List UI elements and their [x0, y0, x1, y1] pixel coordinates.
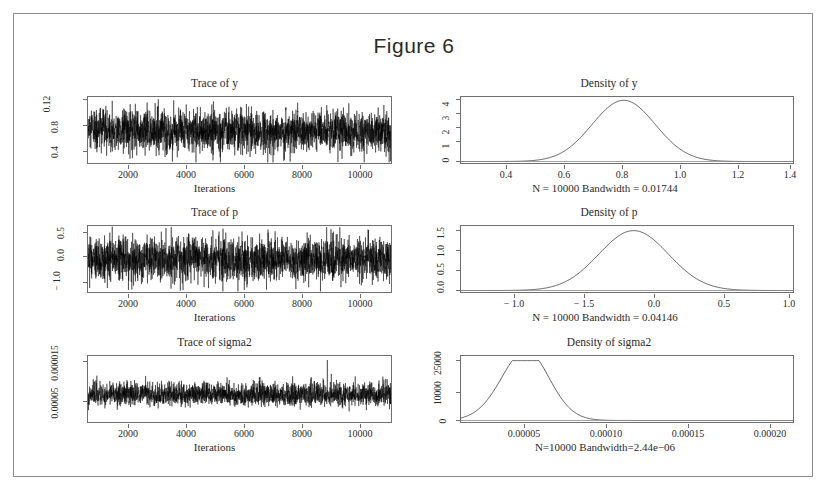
- x-axis-title: Iterations: [62, 441, 367, 453]
- panel-title: Trace of y: [32, 77, 397, 89]
- y-tick-label: − 1.0: [52, 262, 62, 300]
- x-axis-title: N=10000 Bandwidth=2.44e−06: [438, 441, 772, 453]
- y-tick-label: 0.00005: [50, 380, 60, 426]
- x-tick-label: 2000: [118, 169, 138, 180]
- x-tick-label: 4000: [176, 169, 196, 180]
- plot-area: [87, 355, 392, 423]
- x-tick-label: 10000: [348, 298, 373, 309]
- panel-density-y: Density of y 4 3 2 1 0 0.4 0.6 0.8 1.0 1…: [414, 77, 804, 199]
- density-p-curve: [461, 226, 793, 292]
- panel-title: Trace of p: [32, 206, 397, 218]
- x-axis-title: N = 10000 Bandwidth = 0.01744: [438, 182, 772, 194]
- figure-frame: Figure 6 Trace of y 0.12 0.8 0.4 2000 40…: [13, 13, 813, 477]
- plot-area: [460, 96, 794, 164]
- trace-sigma2-line: [88, 356, 391, 422]
- x-tick-label: 2000: [118, 298, 138, 309]
- plot-area: [87, 96, 392, 164]
- panel-density-p: Density of p 1.5 1.0 0.5 0.0 − 1.0 − 1.5…: [414, 206, 804, 328]
- x-tick-label: 10000: [348, 428, 373, 439]
- x-axis-title: N = 10000 Bandwidth = 0.04146: [438, 311, 772, 323]
- panel-trace-y: Trace of y 0.12 0.8 0.4 2000 4000 6000 8…: [32, 77, 397, 195]
- panel-trace-p: Trace of p 0.5 0.0 − 1.0 2000 4000 6000 …: [32, 206, 397, 324]
- y-tick-label: 10000: [433, 375, 443, 411]
- x-tick-label: 8000: [292, 169, 312, 180]
- x-tick-label: 8000: [292, 428, 312, 439]
- x-tick-label: 0.6: [558, 169, 571, 180]
- x-tick-label: 4000: [176, 428, 196, 439]
- y-tick-label: 0.0: [436, 272, 446, 302]
- x-tick-label: 0.00015: [672, 428, 705, 439]
- x-tick-label: 0.00010: [590, 428, 623, 439]
- plot-area: [87, 225, 392, 293]
- x-tick-label: 2000: [118, 428, 138, 439]
- x-tick-label: 1.0: [674, 169, 687, 180]
- x-tick-label: − 1.5: [574, 298, 595, 309]
- x-tick-label: 6000: [234, 298, 254, 309]
- x-tick-label: 0.00005: [508, 428, 541, 439]
- x-tick-label: 0.0: [648, 298, 661, 309]
- panel-density-sigma2: Density of sigma2 25000 10000 0 0.00005 …: [414, 336, 804, 460]
- x-axis-title: Iterations: [62, 311, 367, 323]
- x-tick-label: − 1.0: [504, 298, 525, 309]
- x-tick-label: 0.5: [718, 298, 731, 309]
- y-tick-label: 0.4: [50, 137, 60, 167]
- trace-p-line: [88, 226, 391, 292]
- density-sigma2-curve: [461, 356, 793, 422]
- y-tick-label: 0: [438, 410, 448, 432]
- x-tick-label: 8000: [292, 298, 312, 309]
- figure-title: Figure 6: [14, 34, 814, 58]
- panel-title: Trace of sigma2: [32, 336, 397, 348]
- x-axis-title: Iterations: [62, 182, 367, 194]
- x-tick-label: 0.4: [500, 169, 513, 180]
- x-tick-label: 10000: [348, 169, 373, 180]
- density-y-curve: [461, 97, 793, 163]
- panel-trace-sigma2: Trace of sigma2 0.000015 0.00005 2000 40…: [32, 336, 397, 456]
- x-tick-label: 1.0: [783, 298, 796, 309]
- y-tick-label: 0: [441, 150, 451, 170]
- panel-title: Density of y: [414, 77, 804, 89]
- plot-area: [460, 355, 794, 423]
- x-tick-label: 0.00020: [754, 428, 787, 439]
- plot-area: [460, 225, 794, 293]
- panel-title: Density of p: [414, 206, 804, 218]
- panel-title: Density of sigma2: [414, 336, 804, 348]
- x-tick-label: 6000: [234, 428, 254, 439]
- x-tick-label: 1.4: [784, 169, 797, 180]
- x-tick-label: 4000: [176, 298, 196, 309]
- x-tick-label: 6000: [234, 169, 254, 180]
- trace-y-line: [88, 97, 391, 163]
- x-tick-label: 0.8: [616, 169, 629, 180]
- x-tick-label: 1.2: [732, 169, 745, 180]
